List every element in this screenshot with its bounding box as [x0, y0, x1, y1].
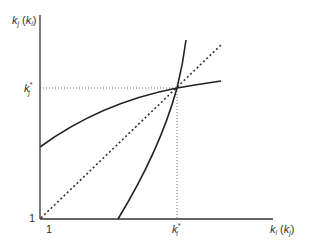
convex-reaction-curve: [118, 40, 186, 219]
concave-reaction-curve: [40, 81, 221, 147]
y-axis-label: kj (ki): [12, 14, 37, 28]
origin-y-label: 1: [29, 212, 35, 224]
equilibrium-x-label: k*i: [172, 222, 181, 237]
equilibrium-y-label: k*j: [24, 81, 33, 97]
45-degree-line: [41, 44, 222, 218]
origin-x-label: 1: [46, 223, 52, 235]
diagram-canvas: kj (ki) k*j 1 1 k*i ki (kj): [0, 0, 310, 249]
x-axis-label: ki (kj): [270, 223, 295, 237]
